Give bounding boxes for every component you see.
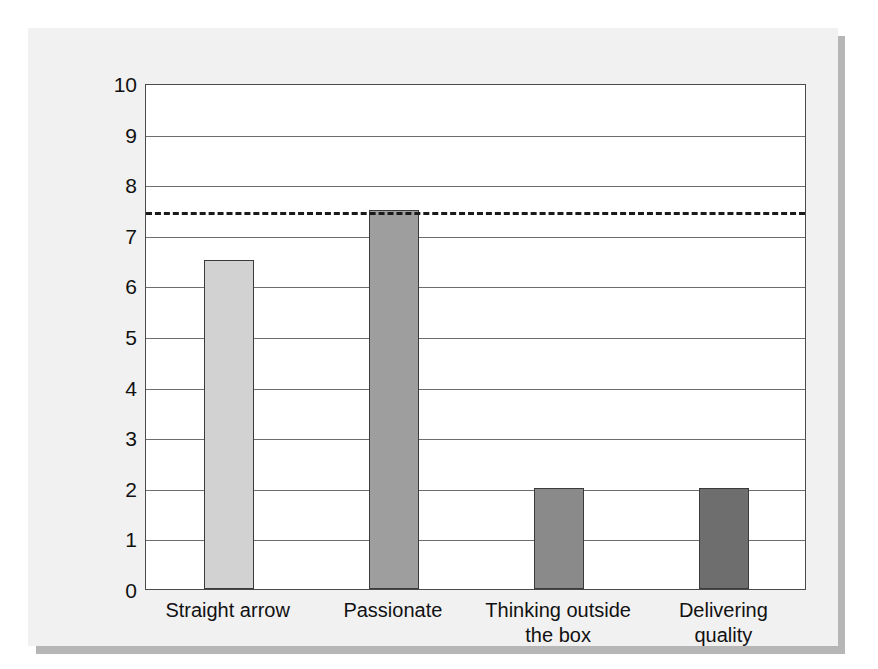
- x-axis-category-labels: Straight arrowPassionateThinking outside…: [145, 598, 806, 660]
- gridline-9: [146, 136, 805, 137]
- y-axis-tick-labels: 109876543210: [97, 84, 137, 590]
- gridline-7: [146, 237, 805, 238]
- y-tick-label-7: 7: [103, 225, 137, 246]
- gridline-8: [146, 186, 805, 187]
- y-tick-label-9: 9: [103, 124, 137, 145]
- y-tick-label-10: 10: [103, 74, 137, 95]
- x-label-line: quality: [623, 623, 823, 648]
- bar-0[interactable]: [204, 260, 254, 589]
- threshold-line: [146, 212, 805, 215]
- y-tick-label-6: 6: [103, 276, 137, 297]
- x-axis-label-3: Deliveringquality: [623, 598, 823, 648]
- y-tick-label-5: 5: [103, 327, 137, 348]
- bar-3[interactable]: [699, 488, 749, 589]
- chart-figure: 109876543210 Straight arrowPassionateThi…: [0, 0, 878, 669]
- y-tick-label-8: 8: [103, 175, 137, 196]
- y-tick-label-2: 2: [103, 478, 137, 499]
- y-tick-label-1: 1: [103, 529, 137, 550]
- bar-2[interactable]: [534, 488, 584, 589]
- plot-area: [145, 84, 806, 590]
- figure-panel: 109876543210 Straight arrowPassionateThi…: [28, 28, 838, 646]
- y-tick-label-4: 4: [103, 377, 137, 398]
- y-tick-label-3: 3: [103, 428, 137, 449]
- x-label-line: Delivering: [623, 598, 823, 623]
- panel-shadow-right: [838, 36, 845, 653]
- bar-1[interactable]: [369, 210, 419, 590]
